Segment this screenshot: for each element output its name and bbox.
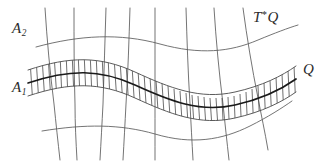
- fiber-curve-8: [243, 8, 268, 150]
- fiber-curve-6: [186, 8, 193, 160]
- hatched-band: [28, 51, 296, 142]
- label-a2-base: A: [12, 20, 21, 36]
- label-a2-subscript: 2: [21, 28, 26, 38]
- fiber-curve-1: [45, 8, 60, 160]
- fiber-curve-2: [74, 8, 77, 160]
- label-q-tail: Q: [268, 9, 279, 25]
- label-a2: A2: [12, 21, 26, 38]
- fiber-curve-4: [123, 8, 130, 160]
- figure-container: A2 A1 T*Q Q: [0, 0, 326, 167]
- curve-bottom: [42, 101, 292, 140]
- label-a1-subscript: 1: [21, 87, 26, 97]
- curve-band-center-bold: [28, 73, 296, 108]
- band-upper-edge: [28, 60, 296, 95]
- label-t-star-q: T*Q: [253, 10, 278, 25]
- label-q: Q: [303, 62, 314, 77]
- band-lower-edge: [28, 86, 296, 121]
- curve-top: [36, 25, 298, 51]
- label-a1-base: A: [12, 79, 21, 95]
- label-a1: A1: [12, 80, 26, 97]
- label-q-base: Q: [303, 61, 314, 77]
